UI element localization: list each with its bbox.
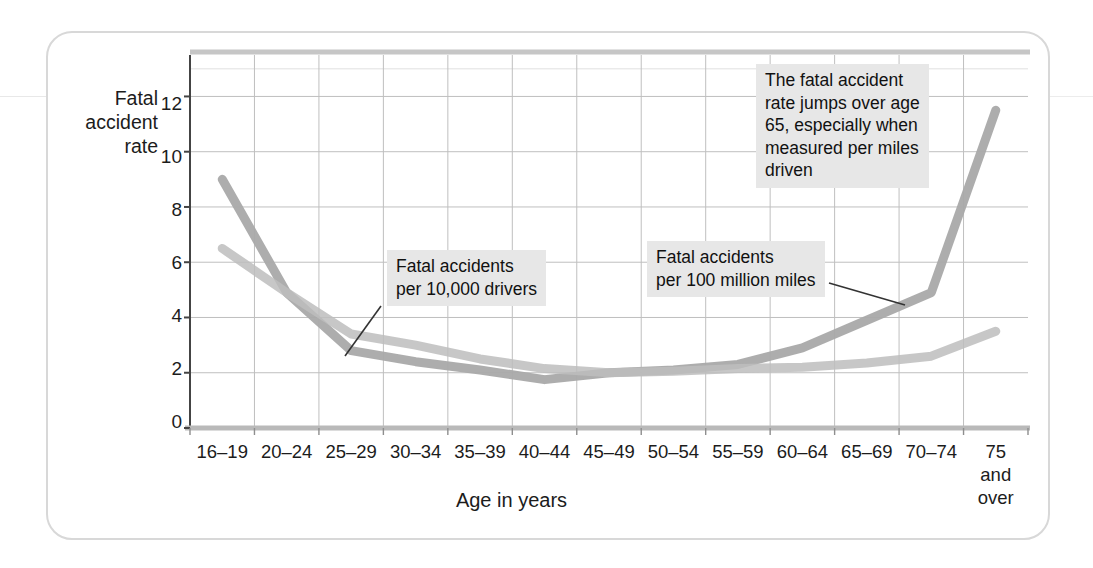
x-axis-title: Age in years bbox=[0, 489, 1093, 512]
annotation-age-65-jump: The fatal accident rate jumps over age 6… bbox=[756, 64, 929, 188]
annotation-drivers: Fatal accidents per 10,000 drivers bbox=[387, 250, 546, 306]
leader-line-miles bbox=[829, 283, 905, 305]
x-tick-label-line: and bbox=[956, 463, 1036, 486]
x-tick-label-line: 75 bbox=[956, 440, 1036, 463]
plot-surface bbox=[0, 0, 1093, 568]
annotation-miles: Fatal accidents per 100 million miles bbox=[647, 241, 825, 297]
x-axis-title-text: Age in years bbox=[456, 489, 567, 512]
fatal-accident-rate-chart: Fatal accident rate 12 10 8 6 4 2 0 16–1… bbox=[0, 0, 1093, 568]
